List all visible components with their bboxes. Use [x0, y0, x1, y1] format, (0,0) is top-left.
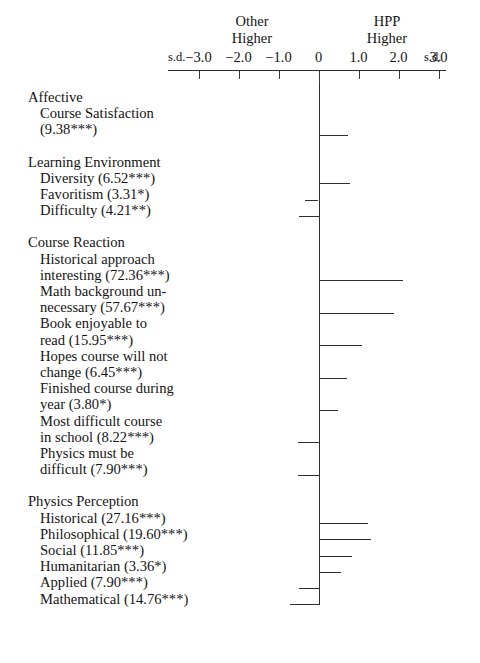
- axis-rule: [168, 70, 446, 71]
- item-label: Humanitarian (3.36*): [40, 558, 166, 574]
- item-label: read (15.95***): [40, 332, 133, 348]
- left-pole-caption: Other Higher: [202, 13, 302, 47]
- right-pole-caption-line2: Higher: [337, 30, 437, 47]
- item-label: difficult (7.90***): [40, 461, 148, 477]
- axis-tick-mark: [359, 71, 360, 79]
- group-heading: Learning Environment: [28, 154, 161, 170]
- data-bar: [319, 183, 350, 184]
- item-label: Physics must be: [40, 445, 134, 461]
- axis-tick-mark: [399, 71, 400, 79]
- item-label: Finished course during: [40, 380, 174, 396]
- axis-tick-label: 3.0: [409, 48, 469, 66]
- zero-axis-line: [319, 71, 320, 605]
- item-label: Favoritism (3.31*): [40, 186, 149, 202]
- data-bar: [319, 572, 341, 573]
- data-bar: [298, 442, 319, 443]
- left-pole-caption-line1: Other: [202, 13, 302, 30]
- axis-scale-row: s.d. s.d. −3.0−2.0−1.001.02.03.0: [0, 48, 480, 68]
- data-bar: [299, 588, 319, 589]
- item-label: necessary (57.67***): [40, 299, 165, 315]
- item-label: Most difficult course: [40, 413, 162, 429]
- item-label: in school (8.22***): [40, 429, 154, 445]
- data-bar: [319, 523, 368, 524]
- chart-header: Other Higher HPP Higher s.d. s.d. −3.0−2…: [0, 0, 480, 86]
- data-bar: [319, 556, 352, 557]
- data-bar: [290, 604, 319, 605]
- item-label: Philosophical (19.60***): [40, 526, 188, 542]
- axis-tick-mark: [239, 71, 240, 79]
- item-label: (9.38***): [40, 121, 97, 137]
- axis-tick-mark: [319, 71, 320, 85]
- item-label: change (6.45***): [40, 364, 142, 380]
- item-label: Social (11.85***): [40, 542, 144, 558]
- item-label: Math background un-: [40, 283, 166, 299]
- data-bar: [319, 345, 362, 346]
- group-heading: Affective: [28, 89, 83, 105]
- data-bar: [319, 313, 394, 314]
- item-label: Applied (7.90***): [40, 574, 148, 590]
- data-bar: [319, 378, 347, 379]
- item-label: Course Satisfaction: [40, 105, 154, 121]
- data-bar: [299, 216, 319, 217]
- axis-tick-mark: [199, 71, 200, 79]
- data-bar: [319, 410, 338, 411]
- axis-tick-mark: [279, 71, 280, 79]
- right-pole-caption-line1: HPP: [337, 13, 437, 30]
- group-heading: Physics Perception: [28, 493, 139, 509]
- item-label: Historical (27.16***): [40, 510, 166, 526]
- item-label: interesting (72.36***): [40, 267, 170, 283]
- item-label: Book enjoyable to: [40, 315, 147, 331]
- group-heading: Course Reaction: [28, 234, 125, 250]
- item-label: Historical approach: [40, 251, 155, 267]
- axis-tick-mark: [439, 71, 440, 79]
- item-label: Difficulty (4.21**): [40, 202, 151, 218]
- data-bar: [298, 475, 319, 476]
- left-pole-caption-line2: Higher: [202, 30, 302, 47]
- data-bar: [319, 135, 348, 136]
- data-bar: [305, 200, 318, 201]
- data-bar: [319, 539, 371, 540]
- item-label: year (3.80*): [40, 396, 111, 412]
- item-label: Hopes course will not: [40, 348, 168, 364]
- item-label: Diversity (6.52***): [40, 170, 155, 186]
- data-bar: [319, 280, 403, 281]
- right-pole-caption: HPP Higher: [337, 13, 437, 47]
- item-label: Mathematical (14.76***): [40, 591, 188, 607]
